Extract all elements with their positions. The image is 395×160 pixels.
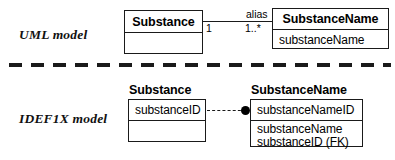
uml-association-label: alias [246,8,268,20]
uml-class-substance: Substance [124,10,203,54]
idef1x-attribute-substancename: substanceName [257,122,342,136]
uml-class-substancename: SubstanceName substanceName [272,8,389,49]
idef1x-entity-substance-name: Substance [129,83,191,97]
uml-class-substance-title: Substance [125,11,202,32]
uml-source-multiplicity: 1 [206,22,212,34]
section-divider [9,63,391,67]
idef1x-entity-substance-attributes [129,120,205,141]
uml-association-line [203,21,272,22]
uml-class-substancename-attribute: substanceName [273,29,388,49]
idef1x-entity-substance: substanceID [128,99,206,142]
idef1x-entity-substancename-attributes: substanceName substanceID (FK) [251,120,362,146]
idef1x-attribute-substanceid-fk: substanceID (FK) [257,135,349,149]
idef1x-entity-substancename: substanceNameID substanceName substanceI… [250,99,363,147]
uml-class-substancename-title: SubstanceName [273,9,388,29]
uml-class-substance-attributes [125,32,202,53]
idef1x-entity-substancename-key: substanceNameID [251,100,362,120]
idef1x-entity-substancename-name: SubstanceName [251,83,347,97]
diagram-canvas: UML model Substance 1 1..* alias Substan… [0,0,395,160]
uml-target-multiplicity: 1..* [245,22,261,34]
idef1x-model-caption: IDEF1X model [19,111,107,127]
idef1x-relationship-dot-icon [241,106,250,115]
idef1x-entity-substance-key: substanceID [129,100,205,120]
uml-model-caption: UML model [19,27,87,43]
